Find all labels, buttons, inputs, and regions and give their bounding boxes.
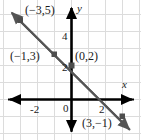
coordinate-graph-figure: y x -2 0 2 2 4 (−3,5) (−1,3) (0,2) (3,−1… [0,0,141,140]
point-label-neg3-5: (−3,5) [25,4,55,16]
y-tick-label-2: 2 [62,62,68,73]
data-point-marker [52,52,58,58]
x-tick-label-2: 2 [99,104,105,115]
x-tick-label-neg2: -2 [30,104,39,115]
x-axis-label: x [122,79,127,90]
x-tick-label-0: 0 [63,103,69,114]
data-point-marker [120,114,126,120]
y-tick-label-4: 4 [62,31,68,42]
point-label-3-neg1: (3,−1) [82,117,112,129]
point-label-0-2: (0,2) [75,50,98,62]
point-label-neg1-3: (−1,3) [10,50,40,62]
data-point-marker [69,63,75,69]
y-axis-label: y [77,3,82,14]
data-point-marker [18,18,24,24]
graph-canvas [0,0,141,140]
